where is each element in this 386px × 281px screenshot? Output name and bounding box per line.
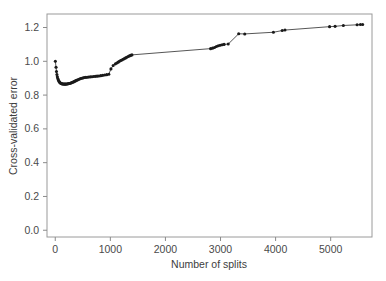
- data-point-marker: [356, 23, 359, 26]
- data-point-marker: [342, 24, 345, 27]
- x-tick-label: 5000: [319, 243, 343, 255]
- y-tick-label: 0.2: [24, 190, 39, 202]
- x-tick-label: 0: [52, 243, 58, 255]
- x-tick-label: 3000: [209, 243, 233, 255]
- data-point-marker: [109, 67, 112, 70]
- data-point-marker: [107, 73, 110, 76]
- data-point-marker: [361, 23, 364, 26]
- y-tick-label: 0.4: [24, 156, 39, 168]
- data-point-marker: [223, 43, 226, 46]
- data-point-marker: [55, 70, 58, 73]
- y-tick-label: 0.0: [24, 224, 39, 236]
- data-point-marker: [283, 29, 286, 32]
- y-tick-label: 0.8: [24, 89, 39, 101]
- data-point-marker: [227, 43, 230, 46]
- data-point-marker: [328, 25, 331, 28]
- y-tick-label: 1.0: [24, 55, 39, 67]
- data-point-marker: [243, 32, 246, 35]
- x-axis-title: Number of splits: [171, 258, 247, 270]
- plot-background: [0, 0, 386, 281]
- y-tick-label: 0.6: [24, 122, 39, 134]
- data-point-marker: [272, 31, 275, 34]
- data-point-marker: [237, 32, 240, 35]
- data-point-marker: [54, 66, 57, 69]
- data-point-marker: [281, 29, 284, 32]
- y-axis-title: Cross-validated error: [7, 76, 19, 175]
- cross-validated-error-plot: 010002000300040005000 0.00.20.40.60.81.0…: [0, 0, 386, 281]
- y-tick-label: 1.2: [24, 21, 39, 33]
- data-point-marker: [130, 53, 133, 56]
- chart-figure: 010002000300040005000 0.00.20.40.60.81.0…: [0, 0, 386, 281]
- x-tick-label: 4000: [264, 243, 288, 255]
- x-tick-label: 1000: [99, 243, 123, 255]
- x-tick-label: 2000: [154, 243, 178, 255]
- data-point-marker: [54, 60, 57, 63]
- data-point-marker: [334, 25, 337, 28]
